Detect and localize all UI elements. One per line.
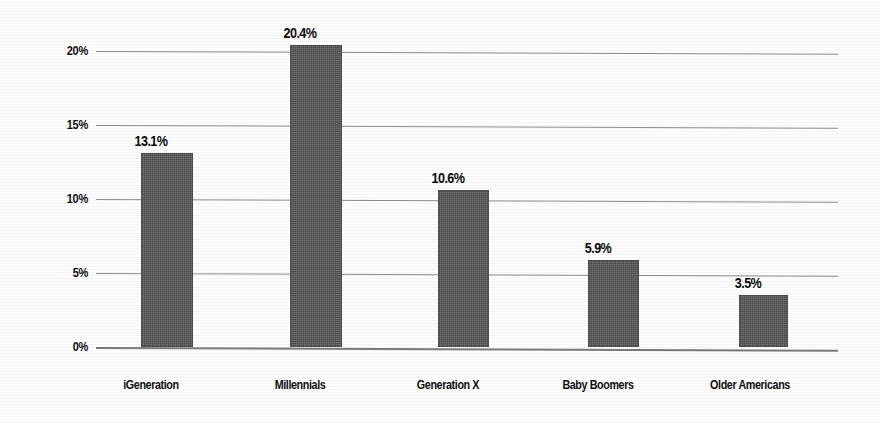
value-label-older-americans: 3.5% [712, 275, 784, 291]
value-label-text: 13.1% [134, 133, 167, 149]
gridline-15 [96, 125, 838, 129]
value-label-text: 10.6% [431, 170, 464, 186]
value-label-generation-x: 10.6% [412, 170, 484, 186]
y-axis-tick-15: 15% [35, 118, 88, 132]
x-axis-label-baby-boomers: Baby Boomers [543, 378, 653, 392]
plot-area [96, 51, 838, 347]
bar-baby-boomers[interactable] [588, 260, 639, 347]
bar-generation-x[interactable] [438, 190, 489, 347]
y-axis-tick-label: 0% [73, 340, 88, 354]
x-axis-label-text: Older Americans [710, 378, 790, 392]
x-axis-baseline [96, 347, 838, 352]
y-axis-tick-label: 15% [67, 118, 88, 132]
bar-older-americans[interactable] [739, 295, 788, 347]
y-axis-tick-5: 5% [35, 266, 88, 280]
value-label-igeneration: 13.1% [115, 133, 187, 149]
bar-chart: 20% 15% 10% 5% 0% 13.1% 20.4% 10.6% 5.9% [0, 0, 880, 423]
gridline-20 [96, 51, 838, 55]
x-axis-label-millennials: Millennials [245, 378, 355, 392]
y-axis-tick-10: 10% [35, 192, 88, 206]
value-label-text: 20.4% [283, 25, 316, 41]
value-label-millennials: 20.4% [264, 25, 336, 41]
value-label-text: 3.5% [735, 275, 762, 291]
y-axis-tick-0: 0% [35, 340, 88, 354]
y-axis-tick-label: 10% [67, 192, 88, 206]
value-label-text: 5.9% [585, 240, 612, 256]
bar-igeneration[interactable] [141, 153, 193, 347]
y-axis-tick-label: 20% [67, 44, 88, 58]
bar-millennials[interactable] [290, 45, 342, 347]
value-label-baby-boomers: 5.9% [562, 240, 634, 256]
x-axis-label-text: Millennials [275, 378, 326, 392]
x-axis-label-older-americans: Older Americans [692, 378, 809, 392]
x-axis-label-generation-x: Generation X [393, 378, 503, 392]
x-axis-label-igeneration: iGeneration [96, 378, 206, 392]
x-axis-label-text: iGeneration [123, 378, 178, 392]
y-axis-tick-label: 5% [73, 266, 88, 280]
x-axis-label-text: Generation X [417, 378, 479, 392]
x-axis-label-text: Baby Boomers [562, 378, 633, 392]
y-axis-tick-20: 20% [35, 44, 88, 58]
